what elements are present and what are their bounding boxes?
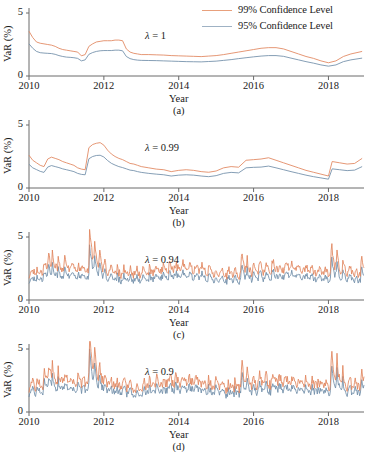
y-tick-label-0: 0: [9, 69, 23, 80]
series-line-95: [29, 155, 362, 179]
y-tick-label-0: 0: [9, 181, 23, 192]
x-tick-label-2012: 2012: [84, 304, 124, 315]
x-tick-label-2018: 2018: [308, 192, 348, 203]
x-tick-label-2016: 2016: [234, 304, 274, 315]
y-tick-label-0: 0: [9, 293, 23, 304]
y-axis-label: VaR (%): [2, 14, 16, 74]
lambda-annotation-c: λ = 0.94: [145, 254, 179, 265]
series-line-95: [29, 44, 362, 66]
panel-b: VaR (%)0520102012201420162018Year(b)λ = …: [0, 112, 378, 224]
axis-spines: [29, 8, 364, 76]
x-tick-label-2018: 2018: [308, 80, 348, 91]
lambda-annotation-a: λ = 1: [145, 30, 166, 41]
panel-a: VaR (%)0520102012201420162018Year(a)λ = …: [0, 0, 378, 112]
panel-c: VaR (%)0520102012201420162018Year(c)λ = …: [0, 224, 378, 336]
x-tick-label-2014: 2014: [159, 416, 199, 427]
series-line-99: [29, 229, 364, 279]
x-tick-label-2014: 2014: [159, 304, 199, 315]
x-tick-label-2016: 2016: [234, 80, 274, 91]
x-axis-label: Year: [149, 317, 209, 328]
x-tick-label-2012: 2012: [84, 416, 124, 427]
series-line-99: [29, 31, 362, 63]
y-tick-label-5: 5: [9, 118, 23, 129]
x-tick-label-2016: 2016: [234, 192, 274, 203]
x-tick-label-2010: 2010: [9, 192, 49, 203]
x-tick-label-2018: 2018: [308, 416, 348, 427]
x-tick-label-2012: 2012: [84, 80, 124, 91]
series-line-99: [29, 143, 362, 176]
y-tick-label-5: 5: [9, 6, 23, 17]
x-tick-label-2012: 2012: [84, 192, 124, 203]
x-tick-label-2016: 2016: [234, 416, 274, 427]
x-tick-label-2014: 2014: [159, 192, 199, 203]
x-tick-label-2010: 2010: [9, 416, 49, 427]
series-line-95: [29, 245, 364, 285]
y-axis-label: VaR (%): [2, 238, 16, 298]
panel-caption-d: (d): [149, 441, 209, 452]
axis-spines: [29, 120, 364, 188]
series-line-95: [29, 349, 364, 398]
y-tick-label-5: 5: [9, 230, 23, 241]
panel-d: VaR (%)0520102012201420162018Year(d)λ = …: [0, 336, 378, 448]
x-axis-label: Year: [149, 429, 209, 440]
x-axis-label: Year: [149, 93, 209, 104]
x-tick-label-2018: 2018: [308, 304, 348, 315]
x-axis-label: Year: [149, 205, 209, 216]
y-tick-label-0: 0: [9, 405, 23, 416]
x-tick-label-2014: 2014: [159, 80, 199, 91]
y-axis-label: VaR (%): [2, 126, 16, 186]
lambda-annotation-b: λ = 0.99: [145, 142, 179, 153]
lambda-annotation-d: λ = 0.9: [145, 366, 174, 377]
x-tick-label-2010: 2010: [9, 80, 49, 91]
x-tick-label-2010: 2010: [9, 304, 49, 315]
y-tick-label-5: 5: [9, 342, 23, 353]
y-axis-label: VaR (%): [2, 350, 16, 410]
